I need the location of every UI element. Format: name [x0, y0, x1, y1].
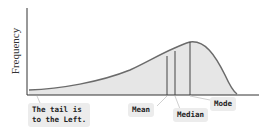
tail-leader [37, 96, 40, 103]
mean-leader [157, 96, 167, 106]
mode-leader [190, 96, 210, 100]
mean-label: Mean [128, 103, 154, 117]
y-axis-label: Frequency [9, 21, 23, 81]
median-label: Median [173, 108, 208, 122]
mode-label: Mode [210, 97, 236, 111]
tail-annotation: The tail is to the Left. [28, 103, 90, 127]
tail-annotation-line2: to the Left. [32, 115, 86, 125]
tail-annotation-line1: The tail is [32, 105, 86, 115]
